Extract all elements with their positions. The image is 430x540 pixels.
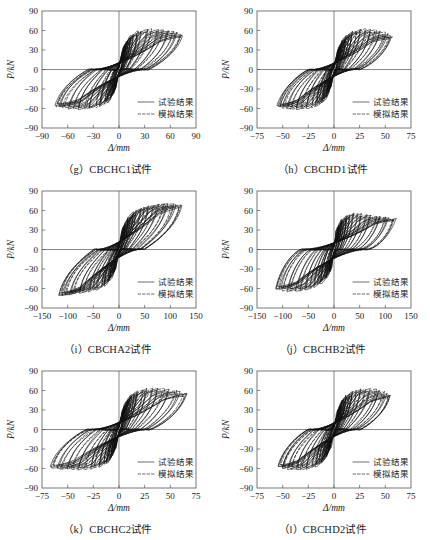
- x-tick-label: 25: [140, 491, 150, 501]
- legend: 试验结果模拟结果: [353, 457, 409, 479]
- legend-label-simulation: 模拟结果: [158, 469, 194, 479]
- x-axis-label: Δ/mm: [107, 323, 130, 333]
- hysteresis-figure-grid: −90−60−300306090−90−60−300306090Δ/mmP/kN…: [0, 0, 430, 540]
- y-tick-label: −90: [239, 123, 254, 133]
- y-axis-label: P/kN: [6, 239, 16, 260]
- y-tick-label: −90: [24, 123, 39, 133]
- x-tick-label: 50: [166, 491, 176, 501]
- x-tick-label: 60: [166, 131, 176, 141]
- x-tick-label: −50: [276, 491, 291, 501]
- y-tick-label: −30: [24, 444, 39, 454]
- legend-label-simulation: 模拟结果: [158, 289, 194, 299]
- x-tick-label: −25: [301, 491, 316, 501]
- legend-label-experimental: 试验结果: [158, 277, 194, 287]
- x-axis-label: Δ/mm: [322, 323, 345, 333]
- x-tick-label: 0: [332, 491, 337, 501]
- y-tick-label: −60: [24, 284, 39, 294]
- y-tick-label: −60: [24, 104, 39, 114]
- y-tick-label: 30: [29, 45, 39, 55]
- y-tick-label: −30: [239, 264, 254, 274]
- legend: 试验结果模拟结果: [138, 277, 194, 299]
- x-tick-label: 100: [164, 311, 178, 321]
- legend-label-simulation: 模拟结果: [158, 109, 194, 119]
- hysteresis-loop: [50, 394, 186, 467]
- y-tick-label: 90: [29, 6, 39, 16]
- x-tick-label: 25: [355, 491, 365, 501]
- y-tick-label: 60: [244, 206, 254, 216]
- y-tick-label: −60: [24, 464, 39, 474]
- panel-caption: （k）CBCHC2试件: [0, 521, 215, 536]
- x-tick-label: 75: [192, 491, 202, 501]
- x-tick-label: −25: [86, 491, 101, 501]
- y-tick-label: −60: [239, 284, 254, 294]
- legend: 试验结果模拟结果: [138, 97, 194, 119]
- y-tick-label: −30: [24, 264, 39, 274]
- x-tick-label: 50: [381, 131, 391, 141]
- x-tick-label: −100: [273, 311, 292, 321]
- x-tick-label: −30: [86, 131, 101, 141]
- y-axis-label: P/kN: [6, 59, 16, 80]
- y-tick-label: −90: [239, 303, 254, 313]
- y-tick-label: −30: [239, 444, 254, 454]
- panel-l: −75−50−250255075−90−60−300306090Δ/mmP/kN…: [215, 360, 430, 540]
- y-tick-label: 0: [249, 65, 254, 75]
- x-tick-label: −50: [276, 131, 291, 141]
- y-tick-label: −90: [239, 483, 254, 493]
- y-tick-label: 60: [244, 26, 254, 36]
- panel-caption: （h）CBCHD1试件: [215, 161, 430, 176]
- y-tick-label: 0: [249, 245, 254, 255]
- x-tick-label: 0: [117, 131, 122, 141]
- y-tick-label: −60: [239, 104, 254, 114]
- legend: 试验结果模拟结果: [138, 457, 194, 479]
- y-axis-label: P/kN: [221, 59, 231, 80]
- x-tick-label: 50: [140, 311, 150, 321]
- x-tick-label: 150: [189, 311, 203, 321]
- y-tick-label: 60: [29, 26, 39, 36]
- x-tick-label: −100: [58, 311, 77, 321]
- x-tick-label: 100: [379, 311, 393, 321]
- y-tick-label: 30: [244, 405, 254, 415]
- x-tick-label: 75: [407, 131, 417, 141]
- x-tick-label: 0: [332, 311, 337, 321]
- legend-label-simulation: 模拟结果: [373, 289, 409, 299]
- panel-h: −75−50−250255075−90−60−300306090Δ/mmP/kN…: [215, 0, 430, 180]
- panel-j: −150−100−50050100150−90−60−300306090Δ/mm…: [215, 180, 430, 360]
- x-tick-label: −50: [301, 311, 316, 321]
- legend: 试验结果模拟结果: [353, 277, 409, 299]
- y-axis-label: P/kN: [221, 239, 231, 260]
- x-axis-label: Δ/mm: [107, 503, 130, 513]
- x-tick-label: −50: [86, 311, 101, 321]
- y-tick-label: 0: [34, 425, 39, 435]
- x-tick-label: 50: [355, 311, 365, 321]
- y-tick-label: −90: [24, 303, 39, 313]
- y-tick-label: −90: [24, 483, 39, 493]
- y-tick-label: −30: [24, 84, 39, 94]
- y-tick-label: 30: [244, 225, 254, 235]
- y-axis-label: P/kN: [221, 419, 231, 440]
- panel-caption: （i）CBCHA2试件: [0, 341, 215, 356]
- x-axis-label: Δ/mm: [107, 143, 130, 153]
- y-tick-label: 0: [249, 425, 254, 435]
- x-tick-label: 0: [332, 131, 337, 141]
- legend-label-experimental: 试验结果: [373, 457, 409, 467]
- panel-k: −75−50−250255075−90−60−300306090Δ/mmP/kN…: [0, 360, 215, 540]
- x-tick-label: −50: [61, 491, 76, 501]
- y-axis-label: P/kN: [6, 419, 16, 440]
- x-axis-label: Δ/mm: [322, 503, 345, 513]
- legend-label-simulation: 模拟结果: [373, 469, 409, 479]
- x-tick-label: 25: [355, 131, 365, 141]
- y-tick-label: 30: [244, 45, 254, 55]
- panel-i: −150−100−50050100150−90−60−300306090Δ/mm…: [0, 180, 215, 360]
- x-axis-label: Δ/mm: [322, 143, 345, 153]
- y-tick-label: 60: [244, 386, 254, 396]
- y-tick-label: 90: [244, 186, 254, 196]
- legend-label-experimental: 试验结果: [373, 277, 409, 287]
- y-tick-label: 90: [29, 186, 39, 196]
- panel-caption: （g）CBCHC1试件: [0, 161, 215, 176]
- panel-caption: （l）CBCHD2试件: [215, 521, 430, 536]
- legend-label-simulation: 模拟结果: [373, 109, 409, 119]
- x-tick-label: 30: [140, 131, 150, 141]
- x-tick-label: 75: [407, 491, 417, 501]
- legend-label-experimental: 试验结果: [158, 97, 194, 107]
- y-tick-label: 90: [244, 366, 254, 376]
